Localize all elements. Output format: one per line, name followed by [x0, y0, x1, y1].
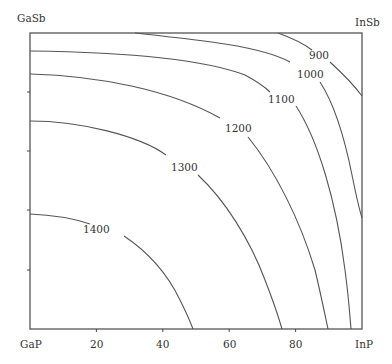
corner-label-inp: InP [355, 338, 373, 350]
x-axis-labels: GaP 20 40 60 80 InP [20, 338, 373, 350]
contour-chart: GaSb InSb GaP 20 40 60 80 InP [0, 0, 392, 364]
corner-label-gap: GaP [20, 338, 42, 350]
x-tick-label: 20 [90, 338, 103, 350]
contour-1100 [30, 51, 351, 329]
contour-label-1000: 1000 [297, 68, 324, 80]
x-tick-label: 40 [156, 338, 169, 350]
corner-label-gasb: GaSb [17, 12, 46, 24]
x-tick-label: 60 [223, 338, 236, 350]
corner-label-insb: InSb [355, 16, 380, 28]
contour-label-1400: 1400 [83, 223, 110, 235]
contour-900 [278, 33, 362, 96]
contour-label-900: 900 [309, 49, 329, 61]
contour-1400 [30, 214, 193, 329]
contour-labels: 900 1000 1100 1200 1300 1400 [83, 49, 329, 235]
contour-label-1200: 1200 [225, 122, 252, 134]
contour-1300 [30, 121, 282, 329]
contour-1200 [30, 74, 328, 329]
x-tick-label: 80 [289, 338, 302, 350]
contour-label-1100: 1100 [268, 93, 295, 105]
contour-label-1300: 1300 [171, 161, 198, 173]
